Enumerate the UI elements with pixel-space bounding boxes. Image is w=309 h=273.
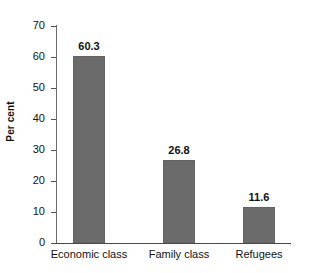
y-tick-label: 40 — [19, 113, 45, 124]
y-tick-mark — [51, 181, 56, 182]
bar — [73, 56, 105, 243]
y-tick-label: 20 — [19, 175, 45, 186]
y-tick-label: 0 — [19, 237, 45, 248]
y-tick-mark — [51, 150, 56, 151]
y-tick-mark — [51, 88, 56, 89]
y-tick-label: 30 — [19, 144, 45, 155]
y-axis-line — [56, 25, 57, 244]
bar — [243, 207, 275, 243]
bar-value-label: 26.8 — [149, 144, 209, 156]
y-tick-mark — [51, 243, 56, 244]
x-axis-category-label: Refugees — [204, 248, 309, 261]
y-tick-mark — [51, 212, 56, 213]
y-tick-label: 10 — [19, 206, 45, 217]
bar-value-label: 60.3 — [59, 40, 119, 52]
x-axis-line — [56, 243, 291, 244]
y-tick-mark — [51, 57, 56, 58]
y-tick-mark — [51, 26, 56, 27]
y-tick-mark — [51, 119, 56, 120]
y-tick-label: 50 — [19, 82, 45, 93]
y-axis-title: Per cent — [5, 92, 16, 152]
y-tick-label: 70 — [19, 20, 45, 31]
bar-value-label: 11.6 — [229, 191, 289, 203]
y-tick-label: 60 — [19, 51, 45, 62]
bar — [163, 160, 195, 243]
bar-chart: Per cent 010203040506070 60.326.811.6 Ec… — [0, 0, 309, 273]
